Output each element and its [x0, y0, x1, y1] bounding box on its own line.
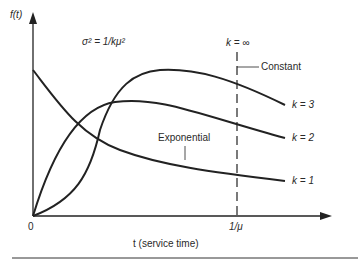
exponential-label: Exponential	[158, 132, 210, 143]
formula-label: σ² = 1/kμ²	[82, 36, 126, 47]
erlang-density-chart: f(t) σ² = 1/kμ² k = ∞ Constant Exponenti…	[0, 0, 361, 262]
k3-label: k = 3	[292, 99, 314, 110]
curve-k2	[33, 101, 285, 216]
y-axis-arrow-icon	[29, 12, 37, 24]
x-axis-label: t (service time)	[133, 238, 199, 249]
origin-label: 0	[28, 221, 34, 232]
x-axis-arrow-icon	[320, 212, 332, 220]
constant-label: Constant	[261, 61, 301, 72]
k2-label: k = 2	[292, 132, 314, 143]
y-axis-label: f(t)	[10, 9, 22, 20]
curve-k1	[33, 70, 285, 181]
mean-tick-label: 1/μ	[229, 221, 243, 232]
k1-label: k = 1	[292, 175, 314, 186]
k-infinity-label: k = ∞	[226, 37, 250, 48]
